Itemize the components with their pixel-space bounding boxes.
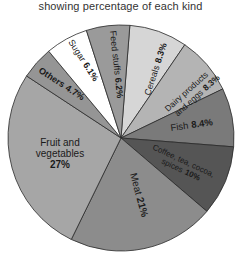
pie-chart: Cereals8.3% Dairy products and eggs8.3% … <box>0 0 241 259</box>
svg-text:Fruit and: Fruit and <box>40 137 79 148</box>
svg-text:vegetables: vegetables <box>36 148 84 159</box>
svg-text:27%: 27% <box>50 159 70 170</box>
